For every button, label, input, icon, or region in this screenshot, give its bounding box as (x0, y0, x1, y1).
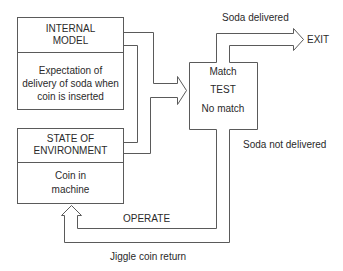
test-match-label: Match (189, 66, 257, 78)
soda-not-delivered-label: Soda not delivered (243, 139, 326, 151)
internal-model-body: Expectation of delivery of soda when coi… (17, 64, 124, 103)
state-of-environment-body: Coin in machine (17, 169, 124, 197)
test-no-match-label: No match (189, 103, 257, 115)
model-to-test-arrow (124, 33, 187, 154)
test-label: TEST (189, 84, 257, 96)
jiggle-coin-return-label: Jiggle coin return (110, 251, 186, 263)
exit-label: EXIT (307, 34, 329, 46)
exit-arrow (217, 29, 304, 63)
state-of-environment-title: STATE OF ENVIRONMENT (17, 133, 124, 157)
soda-delivered-label: Soda delivered (222, 12, 289, 24)
operate-label: OPERATE (123, 213, 170, 225)
internal-model-title: INTERNAL MODEL (17, 23, 124, 47)
